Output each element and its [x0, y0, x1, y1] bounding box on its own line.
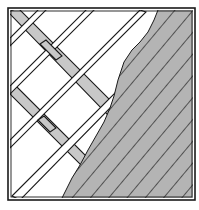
- lattice-diagram: [0, 0, 199, 210]
- lattice-hatch-figure: [0, 0, 199, 210]
